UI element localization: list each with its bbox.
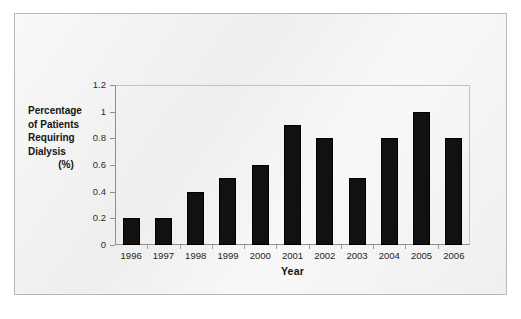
y-axis-tick: 1.2 xyxy=(110,85,115,86)
x-axis-tick-mark xyxy=(180,245,181,249)
x-axis-tick-label: 2006 xyxy=(438,250,470,261)
bar xyxy=(349,178,366,245)
y-axis-tick-label: 0 xyxy=(101,237,106,253)
x-axis-tick-label: 2001 xyxy=(276,250,308,261)
x-axis-title: Year xyxy=(115,265,470,277)
x-axis-tick-label: 1996 xyxy=(115,250,147,261)
y-axis-tick: 0.4 xyxy=(110,192,115,193)
y-axis-tick-label: 0.2 xyxy=(93,210,106,226)
y-axis-tick-mark xyxy=(110,245,115,246)
bar xyxy=(445,138,462,245)
x-axis-tick-label: 1998 xyxy=(180,250,212,261)
y-axis-tick-mark xyxy=(110,85,115,86)
x-axis-tick-label: 1997 xyxy=(147,250,179,261)
x-axis-tick-label: 1999 xyxy=(212,250,244,261)
y-axis-tick-mark xyxy=(110,112,115,113)
y-axis-tick-label: 1 xyxy=(101,104,106,120)
x-axis-tick-label: 2005 xyxy=(405,250,437,261)
y-axis-tick-label: 0.6 xyxy=(93,157,106,173)
bar xyxy=(219,178,236,245)
x-axis-tick-mark xyxy=(244,245,245,249)
bar xyxy=(187,192,204,245)
bar xyxy=(284,125,301,245)
bar xyxy=(155,218,172,245)
y-axis-title-line-1: Percentage xyxy=(28,105,82,116)
x-axis-tick-mark xyxy=(212,245,213,249)
y-axis-tick: 0.6 xyxy=(110,165,115,166)
x-axis-tick-mark xyxy=(341,245,342,249)
x-axis-tick-mark xyxy=(309,245,310,249)
x-axis-tick-mark xyxy=(405,245,406,249)
y-axis-tick-mark xyxy=(110,192,115,193)
bar xyxy=(252,165,269,245)
x-axis-tick-mark xyxy=(373,245,374,249)
bar xyxy=(413,112,430,245)
x-axis-tick-label: 2000 xyxy=(244,250,276,261)
x-axis-tick-label: 2003 xyxy=(341,250,373,261)
x-axis-tick-mark xyxy=(276,245,277,249)
x-axis-tick-label: 2004 xyxy=(373,250,405,261)
bar xyxy=(316,138,333,245)
y-axis-tick-mark xyxy=(110,138,115,139)
y-axis-title-line-4: Dialysis xyxy=(28,146,66,157)
bar-chart: Percentage of Patients Requiring Dialysi… xyxy=(0,0,521,319)
y-axis-tick: 0.8 xyxy=(110,138,115,139)
bar xyxy=(123,218,140,245)
y-axis-tick-label: 0.4 xyxy=(93,184,106,200)
y-axis-tick-mark xyxy=(110,165,115,166)
y-axis-title-line-2: of Patients xyxy=(28,119,79,130)
x-axis-tick-mark xyxy=(147,245,148,249)
bar xyxy=(381,138,398,245)
y-axis-tick-label: 1.2 xyxy=(93,77,106,93)
y-axis-tick: 0 xyxy=(110,245,115,246)
x-axis-tick-mark xyxy=(438,245,439,249)
y-axis-tick-label: 0.8 xyxy=(93,130,106,146)
x-axis-tick-label: 2002 xyxy=(309,250,341,261)
y-axis-tick: 1 xyxy=(110,112,115,113)
y-axis-tick: 0.2 xyxy=(110,218,115,219)
y-axis-title-line-3: Requiring xyxy=(28,132,75,143)
y-axis-tick-mark xyxy=(110,218,115,219)
